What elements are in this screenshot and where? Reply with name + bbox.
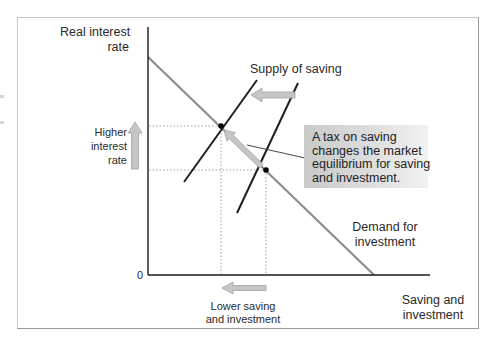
- higher-rate-label: Higher interest rate: [72, 125, 127, 167]
- demand-label-line2: investment: [340, 235, 430, 250]
- supply-shift-arrow: [251, 88, 295, 102]
- higher-rate-line2: interest: [72, 139, 127, 153]
- lower-saving-line1: Lower saving: [188, 300, 298, 313]
- demand-curve-label: Demand for investment: [340, 220, 430, 250]
- note-line-3: equilibrium for saving: [312, 158, 428, 172]
- note-line-4: and investment.: [312, 172, 428, 186]
- origin-label: 0: [137, 268, 143, 283]
- y-axis-label-line1: Real interest: [60, 25, 129, 40]
- diagram-canvas: Real interest rate Saving and investment…: [0, 0, 488, 346]
- higher-rate-line1: Higher: [72, 125, 127, 139]
- lower-saving-arrow: [222, 282, 266, 294]
- lower-saving-line2: and investment: [188, 313, 298, 326]
- tax-note-box: A tax on saving changes the market equil…: [304, 125, 428, 188]
- note-line-1: A tax on saving: [312, 131, 428, 145]
- supply-curve-label: Supply of saving: [250, 62, 342, 77]
- equilibrium-point-original: [263, 167, 269, 173]
- note-line-2: changes the market: [312, 145, 428, 159]
- demand-label-line1: Demand for: [340, 220, 430, 235]
- x-axis-label-line2: investment: [388, 308, 478, 323]
- higher-rate-arrow: [128, 122, 142, 169]
- x-axis-label: Saving and investment: [388, 293, 478, 323]
- y-axis-label-line2: rate: [60, 40, 129, 55]
- note-leader-line: [247, 145, 305, 158]
- higher-rate-line3: rate: [72, 153, 127, 167]
- y-axis-label: Real interest rate: [60, 25, 129, 55]
- supply-curve-after-tax: [184, 80, 257, 182]
- x-axis-label-line1: Saving and: [388, 293, 478, 308]
- equilibrium-point-new: [218, 123, 224, 129]
- lower-saving-label: Lower saving and investment: [188, 300, 298, 326]
